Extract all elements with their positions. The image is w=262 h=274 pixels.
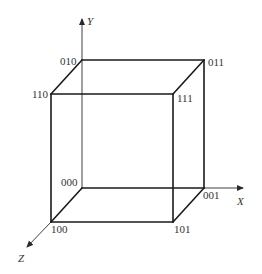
vertex-label-110: 110 — [32, 88, 49, 100]
vertex-label-101: 101 — [174, 223, 191, 235]
z-axis-label: Z — [18, 252, 25, 264]
edge-000-100 — [51, 188, 82, 222]
y-axis-label: Y — [87, 15, 95, 27]
vertex-label-001: 001 — [203, 189, 220, 201]
vertex-label-100: 100 — [51, 223, 68, 235]
x-axis-label: X — [236, 195, 245, 207]
edge-011-111 — [173, 60, 204, 94]
vertex-label-011: 011 — [208, 56, 224, 68]
edge-001-101 — [173, 188, 204, 222]
cube-diagram: Y X Z 010 011 110 111 000 001 100 101 — [0, 0, 262, 274]
vertex-label-010: 010 — [60, 55, 77, 67]
z-axis — [27, 222, 51, 247]
vertex-label-000: 000 — [61, 176, 78, 188]
vertex-label-111: 111 — [177, 92, 193, 104]
